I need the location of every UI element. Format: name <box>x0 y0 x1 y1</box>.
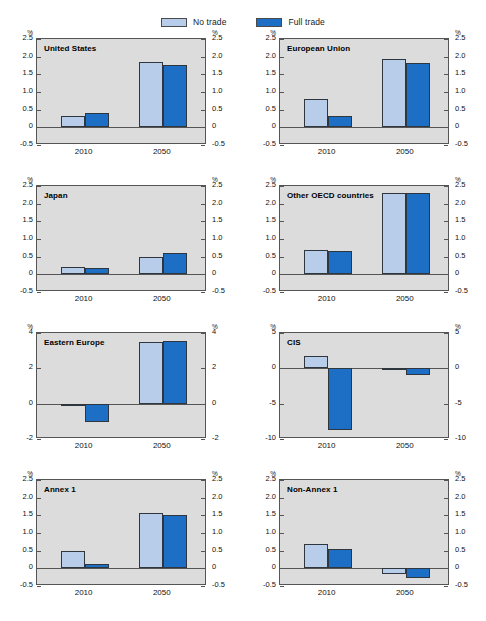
x-tick-label: 2050 <box>153 588 171 597</box>
bar-2010-full-trade <box>85 268 109 274</box>
zero-baseline <box>280 274 448 275</box>
bar-2010-full-trade <box>328 549 352 568</box>
x-tick-label: 2050 <box>153 147 171 156</box>
y-tick-label: -0.5 <box>20 581 33 589</box>
y-tick-mark <box>444 39 448 40</box>
y-tick-mark <box>37 480 41 481</box>
x-axis-labels: 20102050 <box>36 588 206 602</box>
y-tick-label: 0 <box>455 563 459 571</box>
legend-label: No trade <box>193 17 226 27</box>
y-tick-label: 1.0 <box>266 528 276 536</box>
y-tick-label: 2.0 <box>212 199 222 207</box>
y-tick-label: 2.5 <box>212 34 222 42</box>
y-tick-label: 2.5 <box>23 34 33 42</box>
x-tick-label: 2010 <box>318 294 336 303</box>
y-axis-right: %2.52.01.51.00.50-0.5 <box>211 180 233 295</box>
y-tick-mark <box>280 498 284 499</box>
y-tick-mark <box>444 221 448 222</box>
y-tick-mark <box>37 74 41 75</box>
y-tick-label: 0.5 <box>266 252 276 260</box>
y-tick-label: 0 <box>272 122 276 130</box>
panel-european-union: %2.52.01.51.00.50-0.5%2.52.01.51.00.50-0… <box>243 33 486 180</box>
y-tick-mark <box>444 551 448 552</box>
x-axis-labels: 20102050 <box>279 588 449 602</box>
y-tick-label: 0 <box>455 269 459 277</box>
y-tick-label: 4 <box>212 328 216 336</box>
y-tick-mark <box>201 57 205 58</box>
y-tick-mark <box>444 439 448 440</box>
panel-title: European Union <box>287 44 350 53</box>
panel-title: CIS <box>287 338 301 347</box>
y-tick-label: 1.5 <box>266 216 276 224</box>
y-tick-mark <box>201 145 205 146</box>
y-tick-mark <box>37 204 41 205</box>
y-tick-label: 0.5 <box>23 252 33 260</box>
y-tick-mark <box>201 257 205 258</box>
y-tick-label: 0 <box>455 122 459 130</box>
y-axis-right: %2.52.01.51.00.50-0.5 <box>454 474 476 589</box>
y-tick-mark <box>444 186 448 187</box>
bar-2010-full-trade <box>85 564 109 568</box>
legend-swatch-icon <box>161 18 187 27</box>
y-tick-label: 1.5 <box>212 69 222 77</box>
x-tick-label: 2050 <box>396 147 414 156</box>
y-tick-label: 2.0 <box>266 199 276 207</box>
y-tick-mark <box>444 110 448 111</box>
y-axis-left: %2.52.01.51.00.50-0.5 <box>12 33 34 148</box>
y-tick-label: -0.5 <box>263 140 276 148</box>
y-tick-mark <box>280 257 284 258</box>
y-axis-right: %420-2 <box>211 327 233 442</box>
y-tick-mark <box>37 145 41 146</box>
y-tick-label: -0.5 <box>455 140 468 148</box>
x-tick-label: 2050 <box>153 294 171 303</box>
y-tick-mark <box>280 110 284 111</box>
y-tick-mark <box>444 257 448 258</box>
y-axis-right: %2.52.01.51.00.50-0.5 <box>211 33 233 148</box>
bar-2050-full-trade <box>406 193 430 274</box>
y-tick-label: 0.5 <box>266 546 276 554</box>
y-tick-label: 2 <box>29 363 33 371</box>
y-axis-left: %2.52.01.51.00.50-0.5 <box>255 180 277 295</box>
y-tick-label: 5 <box>455 328 459 336</box>
y-tick-label: -2 <box>212 434 219 442</box>
y-tick-label: 0.5 <box>266 105 276 113</box>
plot-area: CIS <box>279 332 449 438</box>
y-tick-label: -0.5 <box>455 287 468 295</box>
y-tick-label: 1.5 <box>455 69 465 77</box>
y-tick-label: 2.5 <box>266 181 276 189</box>
bar-2050-no-trade <box>139 513 163 569</box>
y-tick-mark <box>37 551 41 552</box>
chart-legend: No tradeFull trade <box>0 14 486 30</box>
bar-2050-no-trade <box>382 368 406 370</box>
y-tick-label: 2.5 <box>266 34 276 42</box>
y-tick-mark <box>280 551 284 552</box>
y-tick-mark <box>280 57 284 58</box>
y-axis-left: %420-2 <box>12 327 34 442</box>
y-tick-mark <box>37 221 41 222</box>
bar-2010-full-trade <box>328 116 352 128</box>
y-tick-label: -5 <box>455 399 462 407</box>
bar-2050-no-trade <box>382 59 406 127</box>
y-tick-label: 5 <box>272 328 276 336</box>
panel-title: Non-Annex 1 <box>287 485 337 494</box>
x-tick-label: 2010 <box>75 147 93 156</box>
panel-annex-1: %2.52.01.51.00.50-0.5%2.52.01.51.00.50-0… <box>0 474 243 621</box>
y-tick-label: 0.5 <box>212 546 222 554</box>
y-tick-mark <box>201 515 205 516</box>
x-tick-label: 2010 <box>318 147 336 156</box>
bar-2010-full-trade <box>328 251 352 274</box>
panel-japan: %2.52.01.51.00.50-0.5%2.52.01.51.00.50-0… <box>0 180 243 327</box>
y-tick-mark <box>280 145 284 146</box>
y-tick-label: 0 <box>29 563 33 571</box>
panel-body: %2.52.01.51.00.50-0.5%2.52.01.51.00.50-0… <box>0 33 243 180</box>
bar-2050-no-trade <box>382 568 406 573</box>
y-tick-label: 2.5 <box>455 475 465 483</box>
y-tick-mark <box>444 498 448 499</box>
y-tick-mark <box>280 333 284 334</box>
y-tick-mark <box>444 292 448 293</box>
bar-2050-full-trade <box>406 368 430 374</box>
zero-baseline <box>37 274 205 275</box>
y-tick-label: 1.5 <box>455 510 465 518</box>
y-tick-label: 0 <box>272 269 276 277</box>
legend-swatch-icon <box>256 18 282 27</box>
